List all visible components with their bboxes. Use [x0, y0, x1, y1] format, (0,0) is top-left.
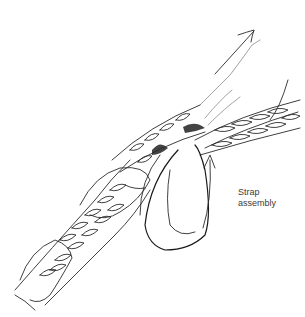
strap-arrow-icon: [203, 155, 215, 228]
rope-strap-illustration: Strap assembly: [0, 0, 305, 317]
sketch-drawing: [0, 0, 305, 317]
rope-middle-braid: [112, 105, 205, 172]
hands: [15, 168, 150, 311]
pull-arrow-icon: [215, 30, 254, 74]
label-line-1: Strap: [238, 187, 276, 198]
strap-assembly-label: Strap assembly: [238, 187, 276, 209]
light-strands: [200, 40, 288, 125]
label-line-2: assembly: [238, 198, 276, 209]
rope-lower-braid: [15, 160, 150, 305]
rope-upper-braid: [195, 100, 300, 155]
strap-loop: [140, 145, 209, 250]
